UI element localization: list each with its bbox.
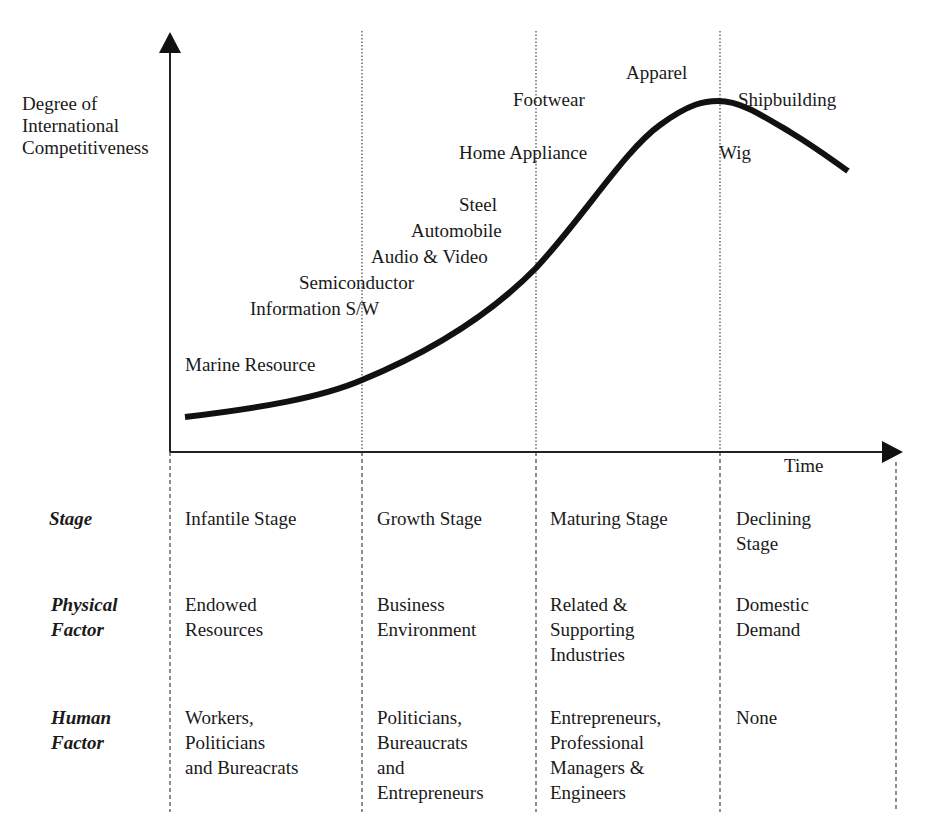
cell-line: Engineers <box>550 780 661 805</box>
cell-line: Environment <box>377 617 476 642</box>
y-axis-arrowhead-icon <box>159 32 181 53</box>
row-header-physical-factor: Physical Factor <box>51 592 118 642</box>
cell-line: Maturing Stage <box>550 506 668 531</box>
y-axis-label-line: Competitiveness <box>22 137 149 159</box>
human-cell-maturing: Entrepreneurs, Professional Managers & E… <box>550 705 661 805</box>
cell-line: Bureaucrats <box>377 730 484 755</box>
human-cell-infantile: Workers, Politicians and Bureacrats <box>185 705 298 780</box>
y-axis-label-line: Degree of <box>22 93 149 115</box>
stage-cell-maturing: Maturing Stage <box>550 506 668 531</box>
industry-label-footwear: Footwear <box>513 89 585 111</box>
cell-line: Entrepreneurs <box>377 780 484 805</box>
cell-line: Industries <box>550 642 634 667</box>
physical-cell-maturing: Related & Supporting Industries <box>550 592 634 667</box>
industry-label-marine-resource: Marine Resource <box>185 354 315 376</box>
industry-label-home-appliance: Home Appliance <box>459 142 587 164</box>
cell-line: None <box>736 705 777 730</box>
cell-line: Politicians, <box>377 705 484 730</box>
cell-line: Supporting <box>550 617 634 642</box>
industry-label-information-sw: Information S/W <box>250 298 379 320</box>
row-header-line: Factor <box>51 730 111 755</box>
cell-line: Stage <box>736 531 811 556</box>
industry-label-semiconductor: Semiconductor <box>299 272 414 294</box>
row-header-stage: Stage <box>49 506 92 531</box>
cell-line: Business <box>377 592 476 617</box>
cell-line: and <box>377 755 484 780</box>
cell-line: Infantile Stage <box>185 506 296 531</box>
cell-line: Managers & <box>550 755 661 780</box>
physical-cell-growth: Business Environment <box>377 592 476 642</box>
y-axis-label-line: International <box>22 115 149 137</box>
cell-line: and Bureacrats <box>185 755 298 780</box>
row-header-line: Physical <box>51 592 118 617</box>
cell-line: Demand <box>736 617 809 642</box>
human-cell-growth: Politicians, Bureaucrats and Entrepreneu… <box>377 705 484 805</box>
human-cell-declining: None <box>736 705 777 730</box>
x-axis-arrowhead-icon <box>882 441 903 463</box>
cell-line: Professional <box>550 730 661 755</box>
row-header-human-factor: Human Factor <box>51 705 111 755</box>
industry-label-apparel: Apparel <box>626 62 687 84</box>
physical-cell-declining: Domestic Demand <box>736 592 809 642</box>
row-header-line: Human <box>51 705 111 730</box>
stage-cell-infantile: Infantile Stage <box>185 506 296 531</box>
x-axis-label: Time <box>784 455 823 477</box>
industry-label-steel: Steel <box>459 194 497 216</box>
y-axis-label: Degree of International Competitiveness <box>22 93 149 159</box>
industry-label-automobile: Automobile <box>411 220 502 242</box>
cell-line: Resources <box>185 617 263 642</box>
industry-label-shipbuilding: Shipbuilding <box>738 89 836 111</box>
cell-line: Workers, <box>185 705 298 730</box>
stage-cell-growth: Growth Stage <box>377 506 482 531</box>
industry-label-audio-video: Audio & Video <box>371 246 488 268</box>
cell-line: Growth Stage <box>377 506 482 531</box>
industry-label-wig: Wig <box>719 142 751 164</box>
cell-line: Related & <box>550 592 634 617</box>
cell-line: Entrepreneurs, <box>550 705 661 730</box>
cell-line: Endowed <box>185 592 263 617</box>
physical-cell-infantile: Endowed Resources <box>185 592 263 642</box>
cell-line: Politicians <box>185 730 298 755</box>
stage-cell-declining: Declining Stage <box>736 506 811 556</box>
row-header-line: Factor <box>51 617 118 642</box>
cell-line: Declining <box>736 506 811 531</box>
cell-line: Domestic <box>736 592 809 617</box>
